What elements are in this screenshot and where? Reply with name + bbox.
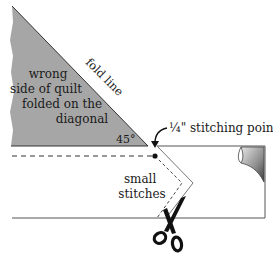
page-curl-icon: [241, 147, 264, 182]
stitching-point-dot: [152, 153, 157, 158]
scissors-icon: [152, 196, 186, 252]
quilt-binding-diagram: wrong side of quilt folded on the diagon…: [0, 0, 273, 259]
page-curl-fold: [238, 147, 241, 163]
stitching-point-label: ¼" stitching point: [169, 121, 273, 135]
stitching-point-arrow: [155, 128, 167, 143]
folded-corner-edge: [157, 146, 193, 218]
angle-label: 45°: [116, 133, 136, 146]
small-stitches-label: small stitches: [118, 172, 165, 201]
